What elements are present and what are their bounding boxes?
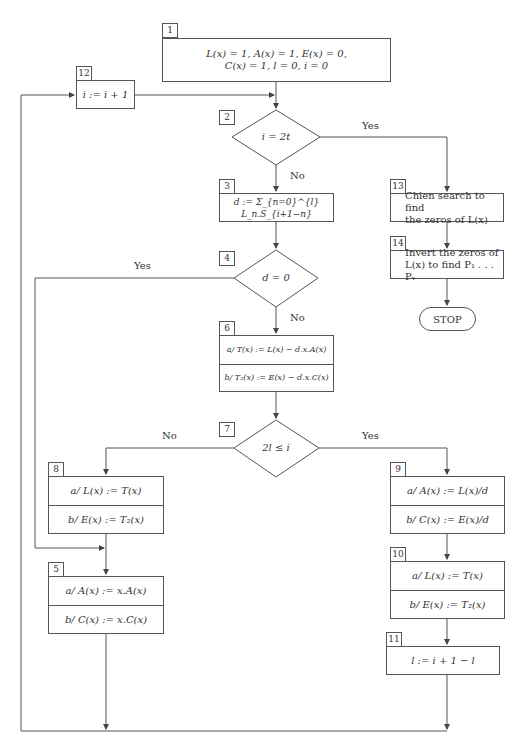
node-14-line-2: L(x) to find P₁ . . . Pᵥ [405,259,503,283]
node-8-step-a: a/ L(x) := T(x) [49,477,163,505]
edge-2-yes-label: Yes [362,120,379,131]
node-13-line-2: the zeros of L(x) [405,214,503,226]
node-1-line-2: C(x) = 1, l = 0, i = 0 [225,60,329,72]
node-2-tag: 2 [219,110,235,125]
edge-7-no-label: No [162,430,177,441]
node-9-step-a: a/ A(x) := L(x)/d [391,477,504,505]
node-4-condition: d = 0 [246,272,306,283]
edge-4-yes-label: Yes [134,260,151,271]
node-10-update-l-e: a/ L(x) := T(x) b/ E(x) := T₂(x) [390,561,505,619]
node-8-update-l-e: a/ L(x) := T(x) b/ E(x) := T₂(x) [48,476,164,534]
node-3-discrepancy: d := Σ_{n=0}^{l} L_n.S_{i+1−n} [219,193,334,222]
node-7-tag: 7 [219,422,235,437]
stop-terminal: STOP [419,307,476,331]
edge-2-no-label: No [290,170,305,181]
node-5-tag: 5 [48,562,64,577]
node-1-line-1: L(x) = 1, A(x) = 1, E(x) = 0, [206,48,347,60]
node-10-step-a: a/ L(x) := T(x) [391,562,504,590]
node-5-step-a: a/ A(x) := x.A(x) [49,577,163,605]
node-8-tag: 8 [48,462,64,477]
node-9-update-a-c: a/ A(x) := L(x)/d b/ C(x) := E(x)/d [390,476,505,534]
node-14-tag: 14 [390,236,406,251]
node-4-tag: 4 [219,251,235,266]
node-6-temp-update: a/ T(x) := L(x) − d.x.A(x) b/ T₂(x) := E… [219,335,334,392]
node-6-step-b: b/ T₂(x) := E(x) − d.x.C(x) [220,364,333,391]
node-8-step-b: b/ E(x) := T₂(x) [49,505,163,533]
node-13-line-1: Chien search to find [405,190,503,214]
node-7-condition: 2l ≤ i [246,442,306,453]
node-3-tag: 3 [219,179,235,194]
node-9-tag: 9 [390,462,406,477]
node-13-tag: 13 [390,179,406,194]
node-5-step-b: b/ C(x) := x.C(x) [49,605,163,633]
node-6-tag: 6 [219,321,235,336]
node-6-step-a: a/ T(x) := L(x) − d.x.A(x) [220,336,333,364]
node-12-tag: 12 [76,66,92,81]
node-10-tag: 10 [390,547,406,562]
node-9-step-b: b/ C(x) := E(x)/d [391,505,504,533]
node-2-condition: i = 2t [246,131,306,142]
node-5-shift: a/ A(x) := x.A(x) b/ C(x) := x.C(x) [48,576,164,634]
node-13-chien-search: Chien search to find the zeros of L(x) [390,193,504,222]
edge-4-no-label: No [290,312,305,323]
node-11-update-l: l := i + 1 − l [386,646,500,675]
node-14-line-1: Invert the zeros of [405,247,503,259]
edge-7-yes-label: Yes [362,430,379,441]
node-10-step-b: b/ E(x) := T₂(x) [391,590,504,618]
node-14-invert-zeros: Invert the zeros of L(x) to find P₁ . . … [390,250,504,279]
node-11-tag: 11 [386,632,402,647]
node-1-tag: 1 [162,23,178,38]
node-1-init: L(x) = 1, A(x) = 1, E(x) = 0, C(x) = 1, … [162,38,391,82]
node-12-increment: i := i + 1 [76,80,135,109]
